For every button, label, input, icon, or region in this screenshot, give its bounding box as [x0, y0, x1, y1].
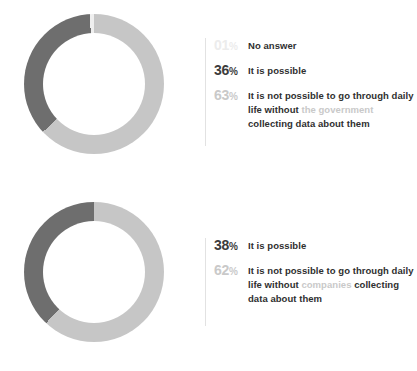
legend-percent-value: 01 [214, 37, 229, 53]
percent-symbol: % [229, 266, 238, 277]
legend-items-companies: 38% It is possible 62% It is not possibl… [214, 238, 417, 306]
legend-item: 63% It is not possible to go through dai… [214, 88, 417, 131]
legend-label-part: collecting data about them [248, 118, 370, 129]
chart-panel-government: 01% No answer 36% It is possible 63% It … [0, 0, 417, 196]
percent-symbol: % [229, 91, 238, 102]
legend-percent: 63% [214, 88, 248, 104]
legend-label-part: No answer [248, 40, 297, 51]
legend-companies: 38% It is possible 62% It is not possibl… [205, 238, 417, 306]
legend-percent: 36% [214, 63, 248, 79]
legend-label: No answer [248, 38, 417, 53]
legend-divider-line [205, 38, 206, 146]
donut-chart-government-wrapper [24, 14, 164, 154]
legend-percent-value: 62 [214, 262, 229, 278]
donut-hole [43, 33, 145, 135]
percent-symbol: % [229, 41, 238, 52]
legend-label-highlight: companies [301, 279, 351, 290]
legend-percent: 01% [214, 38, 248, 54]
percent-symbol: % [229, 66, 238, 77]
legend-item: 01% No answer [214, 38, 417, 54]
legend-label-highlight: the government [301, 104, 373, 115]
legend-percent: 62% [214, 263, 248, 279]
legend-percent: 38% [214, 238, 248, 254]
donut-chart-companies-wrapper [24, 202, 164, 342]
chart-panel-companies: 38% It is possible 62% It is not possibl… [0, 190, 417, 371]
legend-divider-line [205, 238, 206, 326]
percent-symbol: % [229, 241, 238, 252]
legend-label: It is possible [248, 238, 417, 253]
legend-percent-value: 38 [214, 237, 229, 253]
legend-government: 01% No answer 36% It is possible 63% It … [205, 38, 417, 131]
legend-label: It is possible [248, 63, 417, 78]
legend-label: It is not possible to go through daily l… [248, 88, 417, 131]
legend-label: It is not possible to go through daily l… [248, 263, 417, 306]
legend-items-government: 01% No answer 36% It is possible 63% It … [214, 38, 417, 131]
legend-percent-value: 63 [214, 87, 229, 103]
donut-hole [43, 221, 145, 323]
donut-chart-companies [24, 202, 164, 342]
infographic-page: { "colors": { "dark_segment": "#6e6e6e",… [0, 0, 417, 371]
legend-label-part: It is possible [248, 240, 306, 251]
legend-item: 36% It is possible [214, 63, 417, 79]
legend-label-part: It is possible [248, 65, 306, 76]
donut-chart-government [24, 14, 164, 154]
legend-percent-value: 36 [214, 62, 229, 78]
legend-item: 38% It is possible [214, 238, 417, 254]
legend-item: 62% It is not possible to go through dai… [214, 263, 417, 306]
